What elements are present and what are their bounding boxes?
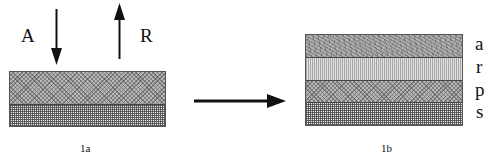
layer-s [306,102,462,125]
layer-a [306,35,462,57]
layer-1a-top [10,72,165,104]
sample-1b [305,34,463,126]
caption-1a: 1a [80,143,90,154]
label-layer-s: s [476,102,483,121]
caption-1b: 1b [381,143,392,154]
arrow-up-icon [0,0,170,75]
label-layer-a: a [475,34,483,53]
arrow-right-icon [190,90,290,110]
layer-p [306,80,462,102]
layer-1a-bottom [10,104,165,126]
label-layer-p: p [475,80,485,99]
sample-1a [9,71,166,127]
label-layer-r: r [476,57,482,76]
layer-r [306,57,462,80]
